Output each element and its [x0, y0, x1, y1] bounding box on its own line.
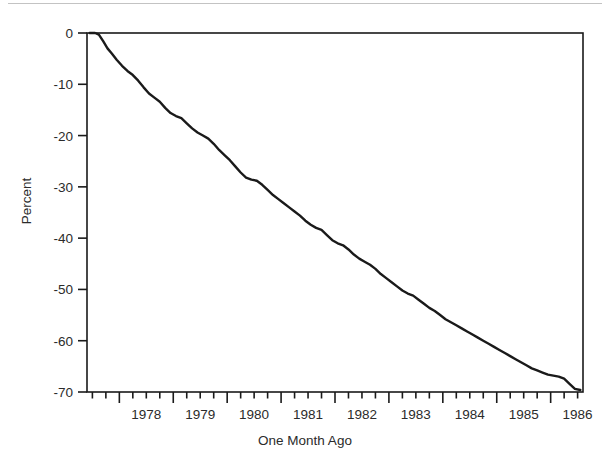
x-tick-label: 1978 — [131, 407, 161, 422]
x-tick-label: 1986 — [563, 407, 593, 422]
plot-frame — [87, 33, 583, 392]
y-tick-label: -60 — [53, 334, 73, 349]
x-tick-label: 1981 — [293, 407, 323, 422]
y-tick-label: -20 — [53, 129, 73, 144]
figure-canvas: 0-10-20-30-40-50-60-70 19781979198019811… — [0, 0, 610, 467]
y-tick-label: 0 — [65, 26, 73, 41]
y-axis-title: Percent — [19, 177, 34, 224]
x-axis: 197819791980198119821983198419851986 — [92, 392, 592, 422]
y-tick-label: -70 — [53, 385, 73, 400]
x-tick-label: 1982 — [347, 407, 377, 422]
x-tick-label: 1980 — [239, 407, 269, 422]
y-tick-label: -30 — [53, 180, 73, 195]
line-chart: 0-10-20-30-40-50-60-70 19781979198019811… — [0, 0, 610, 467]
x-tick-label: 1983 — [401, 407, 431, 422]
y-tick-label: -40 — [53, 231, 73, 246]
x-tick-label: 1979 — [185, 407, 215, 422]
data-line-percent-change — [90, 33, 581, 390]
y-axis: 0-10-20-30-40-50-60-70 — [53, 26, 87, 400]
x-axis-title: One Month Ago — [258, 433, 352, 448]
y-tick-label: -10 — [53, 77, 73, 92]
x-tick-label: 1985 — [509, 407, 539, 422]
y-tick-label: -50 — [53, 282, 73, 297]
x-tick-label: 1984 — [455, 407, 486, 422]
scan-artifact-line — [8, 3, 602, 4]
